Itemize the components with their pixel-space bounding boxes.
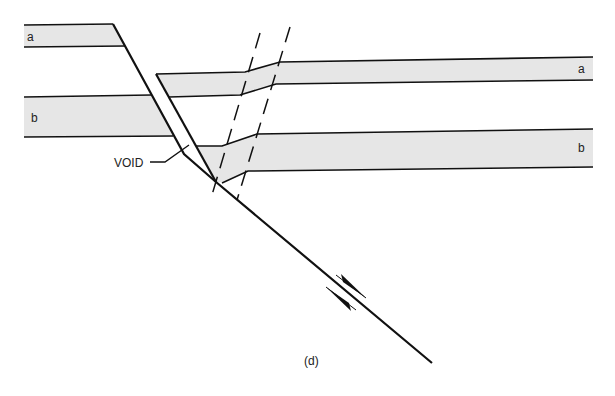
fault-diagram: a b a b VOID (d) [0,0,615,396]
hangingwall-bed-a [156,57,593,97]
label-bed-a-left: a [27,30,34,44]
panel-label: (d) [304,354,319,368]
label-bed-b-left: b [31,111,38,125]
footwall-bed-a [24,24,125,47]
dashed-trace-right [237,27,290,200]
label-void: VOID [114,156,144,170]
label-bed-a-right: a [578,62,585,76]
label-bed-b-right: b [578,141,585,155]
footwall-bed-b [24,95,173,137]
